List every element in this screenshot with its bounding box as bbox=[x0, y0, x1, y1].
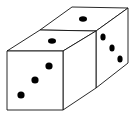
pip bbox=[45, 62, 52, 69]
pip bbox=[117, 55, 122, 62]
pip bbox=[100, 33, 105, 40]
pip bbox=[109, 44, 114, 51]
pip bbox=[31, 76, 38, 83]
pip bbox=[48, 38, 56, 44]
dice-illustration bbox=[0, 0, 135, 121]
pip bbox=[79, 16, 87, 22]
pip bbox=[17, 91, 24, 98]
